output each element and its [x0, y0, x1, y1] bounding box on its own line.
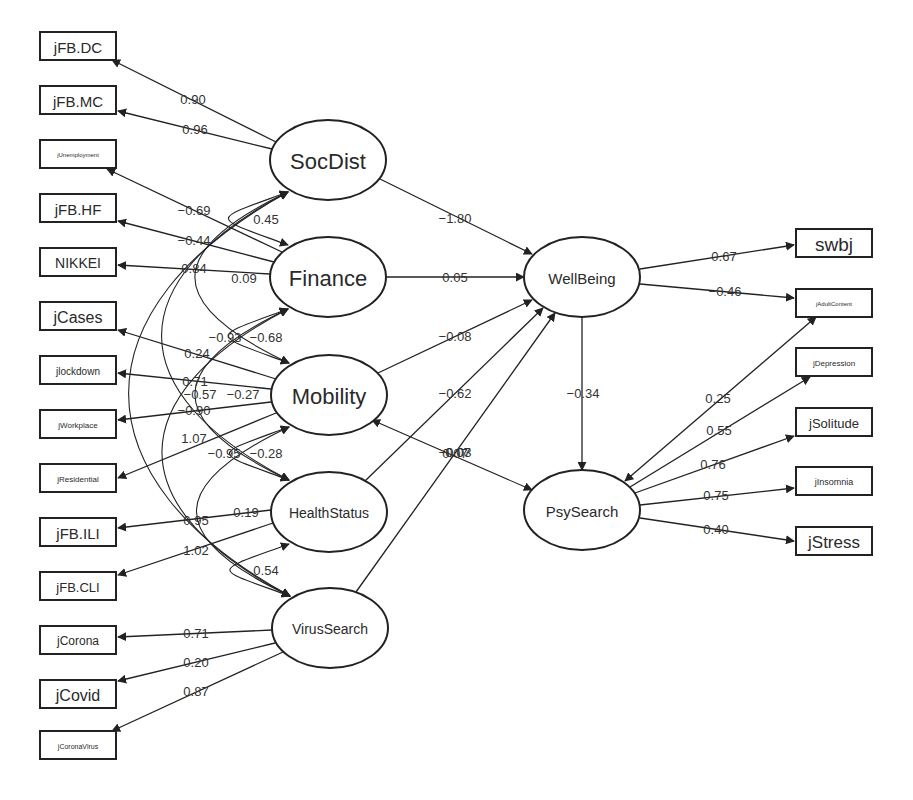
observed-jfb-cli: jFB.CLI	[40, 572, 116, 600]
covariance-coefficient: −0.93	[209, 330, 242, 345]
observed-label: jCovid	[55, 687, 100, 704]
observed-jfb-dc: jFB.DC	[40, 32, 116, 60]
loading-coefficient: −0.46	[709, 284, 742, 299]
latent-psysearch: PsySearch	[524, 470, 640, 550]
path-coefficient: 0.25	[705, 391, 730, 406]
loading-coefficient: −0.69	[178, 203, 211, 218]
observed-jadultcontent: jAdultContent	[796, 289, 872, 317]
covariance-coefficient: 0.54	[253, 563, 278, 578]
observed-label: jUnemployment	[56, 152, 99, 158]
observed-label: jFB.CLI	[55, 580, 99, 595]
observed-label: jFB.MC	[52, 93, 103, 110]
covariance-coefficient: 0.09	[231, 271, 256, 286]
observed-label: jResidential	[56, 475, 99, 484]
loading-coefficient: 0.71	[183, 626, 208, 641]
observed-jstress: jStress	[796, 527, 872, 555]
loading-coefficient: 0.40	[703, 522, 728, 537]
path-coefficient: −0.62	[439, 386, 472, 401]
observed-jfb-mc: jFB.MC	[40, 86, 116, 114]
observed-junemployment: jUnemployment	[40, 140, 116, 168]
path-coefficient: −0.34	[567, 386, 600, 401]
observed-label: NIKKEI	[55, 255, 101, 271]
covariance-coefficient-overlap: 0.07	[445, 445, 470, 460]
covariance-coefficient: 0.45	[253, 212, 278, 227]
loading-coefficient: −0.44	[178, 233, 211, 248]
latent-wellbeing: WellBeing	[524, 237, 640, 317]
covariance-coefficient: −0.28	[250, 446, 283, 461]
observed-label: jFB.ILI	[55, 525, 99, 542]
loading-coefficient: 0.90	[180, 92, 205, 107]
observed-jlockdown: jlockdown	[40, 356, 116, 384]
loading-coefficient: 1.07	[181, 431, 206, 446]
observed-label: jInsomnia	[814, 477, 854, 487]
latent-mobility: Mobility	[271, 355, 387, 435]
covariance-coefficient: 0.19	[233, 505, 258, 520]
path-coefficient: −1.80	[439, 211, 472, 226]
loading-coefficient: 0.20	[183, 655, 208, 670]
coefficient-labels: 0.900.96−0.69−0.440.840.240.71−0.901.070…	[178, 92, 742, 699]
latent-label: HealthStatus	[289, 505, 369, 521]
observed-jresidential: jResidential	[40, 464, 116, 492]
observed-jsolitude: jSolitude	[796, 408, 872, 436]
observed-label: swbj	[815, 234, 853, 255]
loading-coefficient: 0.95	[183, 513, 208, 528]
observed-jcovid: jCovid	[40, 680, 116, 708]
loading-coefficient: 0.84	[181, 261, 206, 276]
observed-label: jAdultContent	[815, 301, 852, 307]
observed-label: jSolitude	[808, 416, 859, 431]
path-coefficient: −0.08	[439, 329, 472, 344]
latent-label: VirusSearch	[292, 621, 368, 637]
observed-label: jlockdown	[55, 366, 100, 377]
loading-coefficient: 1.02	[183, 543, 208, 558]
loading-coefficient: 0.76	[700, 457, 725, 472]
loading-coefficient: −0.90	[178, 403, 211, 418]
latent-finance: Finance	[270, 237, 386, 317]
latent-label: WellBeing	[548, 270, 615, 287]
observed-jfb-hf: jFB.HF	[40, 194, 116, 222]
observed-jworkplace: jWorkplace	[40, 410, 116, 438]
loading-coefficient: 0.55	[706, 423, 731, 438]
observed-jdepression: jDepression	[796, 348, 872, 376]
latent-socdist: SocDist	[270, 120, 386, 200]
observed-label: jFB.DC	[53, 39, 103, 56]
path-coefficient: 0.05	[442, 270, 467, 285]
observed-label: jWorkplace	[57, 421, 98, 430]
observed-jcorona: jCorona	[40, 626, 116, 654]
latent-virussearch: VirusSearch	[272, 588, 388, 668]
observed-label: jCases	[53, 309, 103, 326]
loading-coefficient: 0.24	[184, 346, 209, 361]
loading-coefficient: 0.67	[711, 249, 736, 264]
observed-label: jCoronaVirus	[57, 743, 99, 751]
covariance-coefficient: −0.95	[208, 446, 241, 461]
observed-label: jFB.HF	[54, 201, 102, 218]
observed-jcoronavirus: jCoronaVirus	[40, 731, 116, 759]
latent-label: SocDist	[290, 149, 366, 174]
loading-coefficient: 0.87	[183, 684, 208, 699]
observed-label: jStress	[807, 533, 860, 552]
observed-nikkei: NIKKEI	[40, 248, 116, 276]
covariance-coefficient: −0.57	[184, 387, 217, 402]
sem-path-diagram: jFB.DCjFB.MCjUnemploymentjFB.HFNIKKEIjCa…	[0, 0, 913, 800]
loading-coefficient: 0.96	[182, 122, 207, 137]
latent-healthstatus: HealthStatus	[271, 472, 387, 552]
observed-jcases: jCases	[40, 302, 116, 330]
observed-jinsomnia: jInsomnia	[796, 467, 872, 495]
latent-label: PsySearch	[546, 503, 619, 520]
covariance-coefficient: −0.27	[227, 387, 260, 402]
observed-swbj: swbj	[796, 229, 872, 257]
observed-jfb-ili: jFB.ILI	[40, 518, 116, 546]
latent-label: Mobility	[292, 384, 367, 409]
covariance-coefficient: −0.68	[250, 330, 283, 345]
observed-label: jCorona	[56, 634, 99, 648]
loading-coefficient: 0.75	[703, 488, 728, 503]
latent-label: Finance	[289, 266, 367, 291]
observed-label: jDepression	[812, 359, 855, 368]
